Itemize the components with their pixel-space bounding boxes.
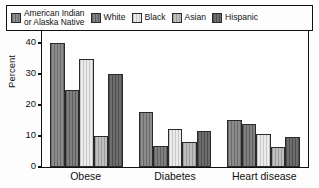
legend-label: Hispanic <box>225 13 258 22</box>
bar <box>227 120 242 167</box>
bars <box>227 12 300 167</box>
x-axis-labels: ObeseDiabetesHeart disease <box>41 170 309 182</box>
y-axis-title: Percent <box>6 40 17 104</box>
bar-group-diabetes <box>131 12 220 167</box>
bar <box>256 134 271 167</box>
legend-swatch-icon <box>212 13 222 23</box>
legend-item-white[interactable]: White <box>91 13 126 23</box>
y-tick-label: 40 <box>25 36 36 47</box>
bar-groups <box>42 12 308 167</box>
legend-swatch-icon <box>11 13 21 23</box>
grouped-bar-chart: Percent 01020304050 ObeseDiabetesHeart d… <box>0 0 319 188</box>
x-axis-label: Obese <box>41 170 130 182</box>
plot-inner: 01020304050 <box>42 12 308 167</box>
y-tick-label: 0 <box>31 160 36 171</box>
legend-swatch-icon <box>172 13 182 23</box>
y-tick-label: 30 <box>25 67 36 78</box>
bar <box>65 90 80 168</box>
bar <box>50 43 65 167</box>
bar <box>139 112 154 167</box>
legend-label: White <box>104 13 126 22</box>
bar-group-heart-disease <box>219 12 308 167</box>
legend-item-asian[interactable]: Asian <box>172 13 207 23</box>
bar <box>94 136 109 167</box>
bar <box>285 137 300 167</box>
bar <box>197 131 212 167</box>
bars <box>50 12 123 167</box>
legend-swatch-icon <box>91 13 101 23</box>
bar <box>182 142 197 167</box>
legend-item-american-indian-or-alaska-native[interactable]: American Indianor Alaska Native <box>11 9 85 27</box>
bar <box>79 59 94 168</box>
y-tick-label: 20 <box>25 98 36 109</box>
y-tick-label: 10 <box>25 129 36 140</box>
bar <box>242 124 257 167</box>
legend-item-hispanic[interactable]: Hispanic <box>212 13 258 23</box>
bar <box>271 147 286 167</box>
legend-item-black[interactable]: Black <box>132 13 166 23</box>
legend-label: American Indianor Alaska Native <box>24 9 85 27</box>
bar <box>153 146 168 167</box>
bars <box>139 12 212 167</box>
legend-label: Black <box>145 13 166 22</box>
x-axis-label: Heart disease <box>220 170 309 182</box>
bar <box>108 74 123 167</box>
plot-area: 01020304050 <box>41 11 309 168</box>
bar <box>168 129 183 167</box>
bar-group-obese <box>42 12 131 167</box>
legend-swatch-icon <box>132 13 142 23</box>
legend-label: Asian <box>185 13 207 22</box>
x-axis-label: Diabetes <box>130 170 219 182</box>
chart-legend: American Indianor Alaska NativeWhiteBlac… <box>6 5 313 31</box>
